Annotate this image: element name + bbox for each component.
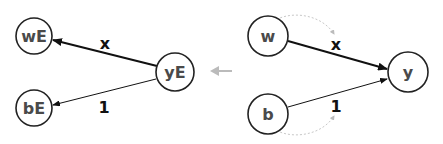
edge-label-1-right: 1 xyxy=(330,97,341,116)
node-label-b: b xyxy=(262,105,273,124)
node-label-w: w xyxy=(261,27,276,46)
node-w: w xyxy=(248,16,288,56)
node-label-yE: yE xyxy=(164,63,185,82)
node-b: b xyxy=(248,94,288,134)
edge-label-x-right: x xyxy=(331,35,342,54)
backprop-diagram: x 1 wE bE yE x 1 w xyxy=(0,0,443,144)
left-graph: x 1 wE bE yE xyxy=(16,18,194,126)
edge-label-1-left: 1 xyxy=(98,98,109,117)
node-label-wE: wE xyxy=(21,27,47,46)
node-bE: bE xyxy=(16,90,52,126)
node-label-bE: bE xyxy=(23,99,45,118)
node-y: y xyxy=(388,52,428,92)
right-graph: x 1 w b y xyxy=(248,15,428,135)
node-yE: yE xyxy=(156,53,194,91)
edge-label-x-left: x xyxy=(100,34,111,53)
transition-arrow-icon xyxy=(210,66,232,76)
node-label-y: y xyxy=(403,63,414,82)
node-wE: wE xyxy=(16,18,52,54)
